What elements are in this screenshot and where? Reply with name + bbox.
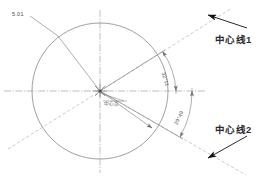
radius-line-upper	[100, 50, 165, 91]
center-point-dot	[98, 89, 101, 92]
length-leader-line-2	[58, 36, 100, 91]
centerline-1-label: 中心线1	[215, 35, 251, 45]
inner-angle-arc	[100, 91, 152, 128]
technical-drawing-canvas: 5.01 中心点 32°11 29°49 中心线1 中心线2	[0, 0, 275, 181]
centerline-2-label: 中心线2	[215, 125, 251, 135]
radius-line-lower	[100, 91, 183, 139]
length-leader-line	[30, 16, 58, 36]
cad-vector-scene	[0, 0, 275, 181]
center-point-label: 中心点	[104, 102, 120, 107]
centerline-2-leader	[208, 136, 247, 158]
length-dimension-label: 5.01	[12, 12, 24, 17]
centerline-1-leader	[208, 15, 247, 28]
